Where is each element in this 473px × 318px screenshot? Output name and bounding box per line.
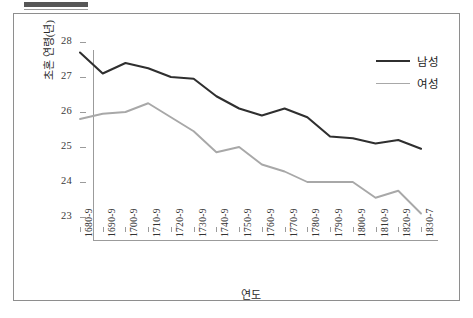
series-line-남성: [80, 53, 421, 149]
series-line-여성: [80, 103, 421, 213]
scan-artifact-bar: [24, 2, 88, 7]
figure-frame: 남성여성 초혼 연령(년) 연도 232425262728 1680-91690…: [13, 13, 460, 301]
scan-artifact-rule: [24, 9, 88, 10]
chart-plot-area: [14, 14, 461, 302]
